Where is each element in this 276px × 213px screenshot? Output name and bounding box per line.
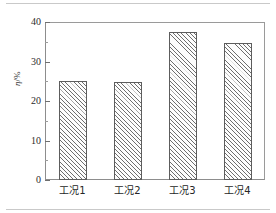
x-tick-label-2: 工况2 — [100, 182, 155, 197]
y-tick-label-30: 30 — [0, 57, 41, 67]
bar-condition-2 — [114, 82, 142, 180]
x-tick-label-4: 工况4 — [210, 182, 265, 197]
y-tick-30 — [45, 62, 50, 63]
bar-condition-1 — [59, 81, 87, 180]
y-axis-symbol: η — [12, 82, 22, 86]
y-tick-0 — [45, 180, 50, 181]
x-tick-label-1: 工况1 — [45, 182, 100, 197]
y-axis-unit: /% — [12, 72, 22, 82]
y-tick-minor-35 — [45, 42, 48, 43]
bar-condition-3 — [169, 32, 197, 180]
y-tick-minor-5 — [45, 160, 48, 161]
y-tick-20 — [45, 101, 50, 102]
y-tick-label-20: 20 — [0, 96, 41, 106]
page-rule-top — [6, 3, 270, 4]
page-rule-bottom — [6, 209, 270, 210]
y-tick-label-0: 0 — [0, 175, 41, 185]
chart-figure: η/% 工况1 工况2 工况3 工况4 010203040 — [0, 0, 276, 213]
y-tick-minor-25 — [45, 81, 48, 82]
y-tick-minor-15 — [45, 121, 48, 122]
y-tick-10 — [45, 141, 50, 142]
y-axis-title: η/% — [12, 72, 22, 86]
y-tick-40 — [45, 22, 50, 23]
x-tick-label-3: 工况3 — [155, 182, 210, 197]
y-tick-label-40: 40 — [0, 17, 41, 27]
y-tick-label-10: 10 — [0, 136, 41, 146]
bar-condition-4 — [224, 43, 252, 180]
